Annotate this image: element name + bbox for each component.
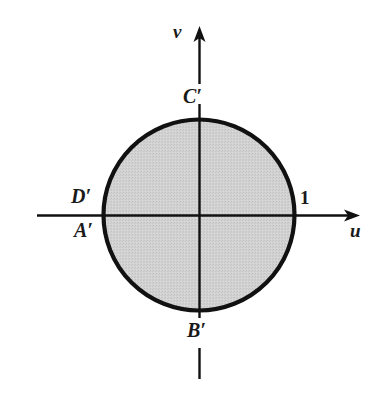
v-axis-label: v	[173, 22, 181, 41]
point-label-b-prime: B′	[187, 320, 206, 340]
point-label-d-prime: D′	[71, 186, 91, 206]
unit-tick-label: 1	[300, 188, 310, 207]
point-label-c-prime: C′	[183, 86, 202, 106]
u-axis-label: u	[350, 221, 361, 240]
figure-canvas: v u 1 C′ B′ D′ A′	[0, 0, 379, 399]
point-label-a-prime: A′	[74, 220, 93, 240]
